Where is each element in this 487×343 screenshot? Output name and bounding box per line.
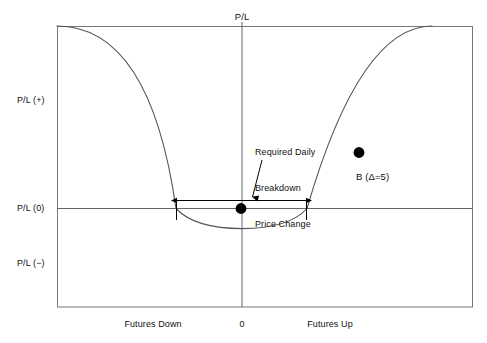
chart-title: P/L <box>235 11 250 22</box>
breakdown-annotation-text: Required Daily Breakdown Price Change <box>255 122 315 254</box>
x-axis-label-zero: 0 <box>239 319 244 330</box>
annotation-line-2: Breakdown <box>255 182 315 194</box>
y-axis-label-zero: P/L (0) <box>17 203 44 214</box>
origin-marker-dot <box>236 203 247 214</box>
chart-canvas <box>0 0 487 343</box>
annotation-line-1: Required Daily <box>255 146 315 158</box>
x-axis-label-futures-down: Futures Down <box>124 319 181 330</box>
y-axis-label-negative: P/L (−) <box>17 258 45 269</box>
point-b-marker-dot <box>354 147 365 158</box>
point-b-label: B (Δ=5) <box>356 171 389 182</box>
x-axis-label-futures-up: Futures Up <box>307 319 353 330</box>
payoff-chart: P/L P/L (+) P/L (0) P/L (−) Futures Down… <box>0 0 487 343</box>
pl-curve <box>57 26 432 229</box>
y-axis-label-positive: P/L (+) <box>17 95 45 106</box>
annotation-line-3: Price Change <box>255 218 315 230</box>
